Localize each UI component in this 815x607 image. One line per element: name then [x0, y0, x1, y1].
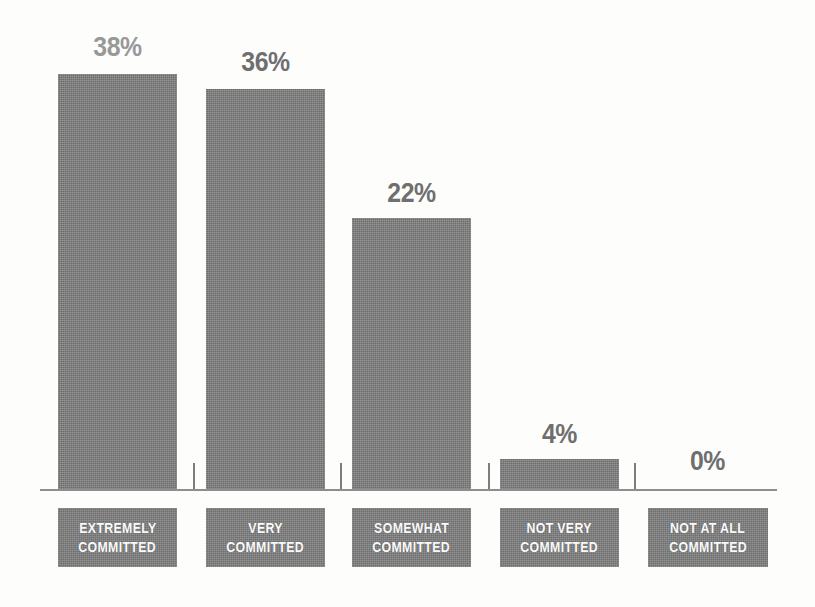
- axis-tick-3: [488, 463, 490, 489]
- category-label-very-committed: VERY COMMITTED: [206, 508, 325, 567]
- axis-tick-4: [634, 463, 636, 489]
- category-label-line-1: VERY: [248, 519, 283, 538]
- category-label-not-at-all-committed: NOT AT ALL COMMITTED: [648, 508, 768, 567]
- category-label-line-2: COMMITTED: [521, 538, 599, 557]
- value-label-not-very-committed: 4%: [505, 419, 614, 450]
- value-label-somewhat-committed: 22%: [357, 178, 466, 209]
- bar-chart: 38% 36% 22% 4% 0% EXTREMELY COMMITTED VE…: [0, 0, 815, 607]
- category-label-extremely-committed: EXTREMELY COMMITTED: [58, 508, 177, 567]
- category-label-line-2: COMMITTED: [373, 538, 451, 557]
- bar-extremely-committed: [58, 74, 177, 489]
- category-label-not-very-committed: NOT VERY COMMITTED: [500, 508, 619, 567]
- category-label-line-2: COMMITTED: [227, 538, 305, 557]
- x-axis-baseline: [40, 489, 777, 491]
- plot-area: 38% 36% 22% 4% 0%: [0, 0, 815, 495]
- category-label-somewhat-committed: SOMEWHAT COMMITTED: [352, 508, 471, 567]
- axis-tick-1: [193, 463, 195, 489]
- bar-very-committed: [206, 89, 325, 489]
- category-label-line-2: COMMITTED: [79, 538, 157, 557]
- bar-somewhat-committed: [352, 218, 471, 489]
- value-label-extremely-committed: 38%: [63, 32, 172, 63]
- category-label-line-1: NOT AT ALL: [671, 519, 746, 538]
- category-label-line-2: COMMITTED: [669, 538, 747, 557]
- category-label-line-1: NOT VERY: [527, 519, 592, 538]
- value-label-very-committed: 36%: [211, 47, 320, 78]
- category-label-line-1: SOMEWHAT: [374, 519, 449, 538]
- value-label-not-at-all-committed: 0%: [653, 446, 762, 477]
- category-label-row: EXTREMELY COMMITTED VERY COMMITTED SOMEW…: [0, 508, 815, 570]
- category-label-line-1: EXTREMELY: [79, 519, 156, 538]
- axis-tick-2: [340, 463, 342, 489]
- bar-not-very-committed: [500, 459, 619, 489]
